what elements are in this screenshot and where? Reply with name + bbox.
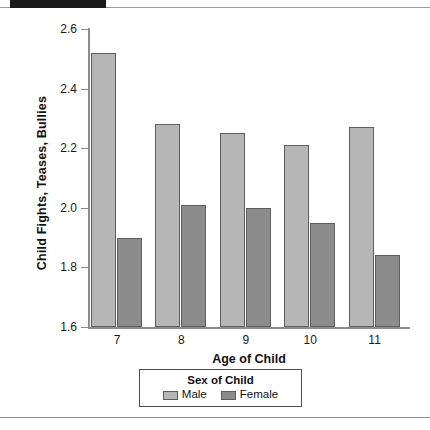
x-axis-tick-label: 10	[280, 334, 340, 346]
y-axis-tick	[81, 327, 88, 328]
y-axis-tick-label: 2.0	[17, 202, 77, 214]
y-axis-tick-label: 1.6	[17, 321, 77, 333]
y-axis-tick-label: 1.8	[17, 261, 77, 273]
bar-female-age-11	[375, 255, 400, 327]
bar-female-age-8	[181, 205, 206, 327]
legend-label: Male	[182, 389, 207, 401]
y-axis-tick-label: 2.6	[17, 23, 77, 35]
page-bottom-rule	[0, 417, 430, 418]
x-axis-tick-label: 7	[87, 334, 147, 346]
legend-swatch-male	[163, 391, 178, 400]
y-axis-tick	[81, 148, 88, 149]
bar-male-age-8	[155, 124, 180, 327]
x-axis-line	[88, 327, 410, 329]
legend-item-female: Female	[221, 389, 278, 401]
legend-swatch-female	[221, 391, 236, 400]
x-axis-tick-label: 8	[151, 334, 211, 346]
y-axis-tick	[81, 267, 88, 268]
bar-chart: Child Fights, Teases, Bullies 2.62.42.22…	[0, 8, 430, 417]
bar-male-age-7	[91, 53, 116, 327]
bar-male-age-11	[349, 127, 374, 327]
x-axis-tick-label: 11	[345, 334, 405, 346]
bar-female-age-10	[310, 223, 335, 327]
legend-label: Female	[240, 389, 278, 401]
y-axis-tick	[81, 29, 88, 30]
y-axis-tick-label: 2.4	[17, 83, 77, 95]
legend-item-male: Male	[163, 389, 207, 401]
x-axis-title: Age of Child	[88, 352, 410, 366]
bar-male-age-9	[220, 133, 245, 327]
chart-legend: Sex of Child MaleFemale	[139, 369, 302, 407]
figure-page: Child Fights, Teases, Bullies 2.62.42.22…	[0, 0, 430, 430]
plot-area	[88, 29, 410, 327]
page-header-mark	[10, 0, 106, 8]
legend-items: MaleFemale	[140, 389, 301, 401]
y-axis-tick	[81, 208, 88, 209]
bar-female-age-9	[246, 208, 271, 327]
legend-title: Sex of Child	[140, 373, 301, 387]
y-axis-tick-label: 2.2	[17, 142, 77, 154]
y-axis-tick	[81, 89, 88, 90]
x-axis-tick-label: 9	[216, 334, 276, 346]
bar-male-age-10	[284, 145, 309, 327]
bar-female-age-7	[117, 238, 142, 327]
